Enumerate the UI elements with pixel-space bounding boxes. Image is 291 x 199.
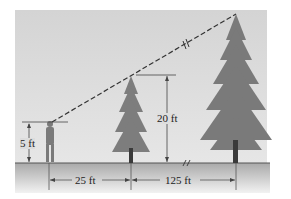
person-height-label: 5 ft [20, 138, 35, 149]
distance-125-label: 125 ft [165, 175, 191, 186]
ground [15, 163, 270, 193]
small-tree-height-label: 20 ft [157, 113, 177, 124]
distance-25-label: 25 ft [75, 175, 95, 186]
similar-triangles-tree-diagram [0, 0, 291, 199]
